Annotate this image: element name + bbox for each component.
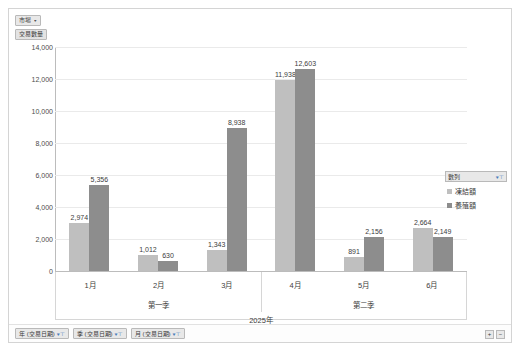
- y-axis-tick-label: 0: [13, 268, 53, 275]
- legend-header-label: 數列: [448, 172, 460, 181]
- legend-item-label: 凍結額: [455, 186, 476, 196]
- legend-items: 凍結額養殖額: [445, 186, 507, 210]
- bar[interactable]: 1,343: [207, 47, 227, 271]
- bar-body: [89, 185, 109, 271]
- category-label-month: 4月: [261, 272, 329, 296]
- bar-data-label: 1,012: [139, 246, 157, 253]
- y-axis-tick-label: 8,000: [13, 140, 53, 147]
- legend-item[interactable]: 養殖額: [445, 200, 507, 210]
- bar-data-label: 2,149: [434, 228, 452, 235]
- bar-body: [295, 69, 315, 271]
- bar[interactable]: 891: [344, 47, 364, 271]
- bar-data-label: 891: [348, 248, 360, 255]
- bar[interactable]: 2,149: [433, 47, 453, 271]
- legend-swatch-icon: [447, 189, 452, 194]
- legend-item-label: 養殖額: [455, 200, 476, 210]
- category-label-quarter: 第二季: [261, 296, 467, 312]
- y-axis-tick-label: 2,000: [13, 236, 53, 243]
- bar[interactable]: 11,938: [275, 47, 295, 271]
- axis-field-label: 年 (交易日期): [19, 329, 55, 338]
- filter-field-market-button[interactable]: 市場 ▾: [15, 15, 41, 26]
- bar-body: [227, 128, 247, 271]
- funnel-icon: ▾⊤: [57, 331, 65, 337]
- zoom-controls: + −: [485, 330, 505, 339]
- bar[interactable]: 2,156: [364, 47, 384, 271]
- bar-group: 2,9745,356: [55, 47, 124, 271]
- axis-field-button[interactable]: 季 (交易日期)▾⊤: [73, 328, 127, 339]
- category-label-month: 6月: [398, 272, 466, 296]
- bar-group: 11,93812,603: [261, 47, 330, 271]
- bar-group: 1,3438,938: [192, 47, 261, 271]
- pivot-chart-frame: 市場 ▾ 交易數量 02,0004,0006,0008,00010,00012,…: [8, 8, 512, 343]
- y-axis-tick-label: 12,000: [13, 76, 53, 83]
- y-axis-tick-label: 4,000: [13, 204, 53, 211]
- y-axis-tick-label: 14,000: [13, 44, 53, 51]
- pivot-chart-screenshot: 市場 ▾ 交易數量 02,0004,0006,0008,00010,00012,…: [0, 0, 520, 351]
- category-label-month: 3月: [193, 272, 261, 296]
- axis-field-label: 月 (交易日期): [135, 329, 171, 338]
- legend-swatch-icon: [447, 203, 452, 208]
- category-label-quarter: 第一季: [56, 296, 261, 312]
- bar[interactable]: 2,974: [69, 47, 89, 271]
- bar-group: 2,6642,149: [398, 47, 467, 271]
- category-label-month: 5月: [329, 272, 397, 296]
- bar-data-label: 2,664: [414, 219, 432, 226]
- bar-body: [275, 80, 295, 271]
- bar-data-label: 2,974: [71, 214, 89, 221]
- bar-group: 1,012630: [124, 47, 193, 271]
- legend: 數列 ▾⊤ 凍結額養殖額: [445, 171, 507, 210]
- bar-data-label: 5,356: [91, 176, 109, 183]
- legend-header-button[interactable]: 數列 ▾⊤: [445, 171, 507, 182]
- axis-field-bar: 年 (交易日期)▾⊤季 (交易日期)▾⊤月 (交易日期)▾⊤: [9, 324, 511, 342]
- legend-item[interactable]: 凍結額: [445, 186, 507, 196]
- y-axis-tick-label: 10,000: [13, 108, 53, 115]
- filter-field-market-label: 市場: [19, 16, 31, 25]
- funnel-icon: ▾⊤: [496, 174, 504, 180]
- axis-field-button[interactable]: 月 (交易日期)▾⊤: [131, 328, 185, 339]
- bar[interactable]: 2,664: [413, 47, 433, 271]
- bar-body: [433, 237, 453, 271]
- category-axis: 1月2月3月4月5月6月 第一季第二季 2025年: [55, 272, 467, 320]
- bar-data-label: 8,938: [228, 119, 246, 126]
- value-field-quantity-button[interactable]: 交易數量: [15, 29, 47, 40]
- quarter-divider: [261, 272, 262, 312]
- bar-body: [344, 257, 364, 271]
- value-field-quantity-label: 交易數量: [19, 30, 43, 39]
- bar-data-label: 11,938: [275, 71, 296, 78]
- zoom-out-button[interactable]: −: [496, 330, 505, 339]
- bar-body: [413, 228, 433, 271]
- y-axis-ticks: 02,0004,0006,0008,00010,00012,00014,000: [9, 47, 53, 271]
- bar-data-label: 1,343: [208, 241, 226, 248]
- bar-body: [364, 237, 384, 271]
- bar-body: [207, 250, 227, 271]
- funnel-icon: ▾⊤: [115, 331, 123, 337]
- zoom-in-button[interactable]: +: [485, 330, 494, 339]
- bar-data-label: 2,156: [365, 228, 383, 235]
- category-label-month: 2月: [124, 272, 192, 296]
- bar-body: [158, 261, 178, 271]
- plot-area: 2,9745,3561,0126301,3438,93811,93812,603…: [55, 47, 467, 271]
- chevron-down-icon: ▾: [34, 17, 37, 24]
- bar-data-label: 630: [162, 252, 174, 259]
- funnel-icon: ▾⊤: [173, 331, 181, 337]
- bar[interactable]: 630: [158, 47, 178, 271]
- bar-group: 8912,156: [330, 47, 399, 271]
- bar[interactable]: 8,938: [227, 47, 247, 271]
- bar[interactable]: 12,603: [295, 47, 315, 271]
- axis-field-label: 季 (交易日期): [77, 329, 113, 338]
- bar-data-label: 12,603: [295, 60, 316, 67]
- bar-body: [69, 223, 89, 271]
- y-axis-tick-label: 6,000: [13, 172, 53, 179]
- bar[interactable]: 1,012: [138, 47, 158, 271]
- bar-body: [138, 255, 158, 271]
- bar[interactable]: 5,356: [89, 47, 109, 271]
- category-label-month: 1月: [56, 272, 124, 296]
- axis-field-button[interactable]: 年 (交易日期)▾⊤: [15, 328, 69, 339]
